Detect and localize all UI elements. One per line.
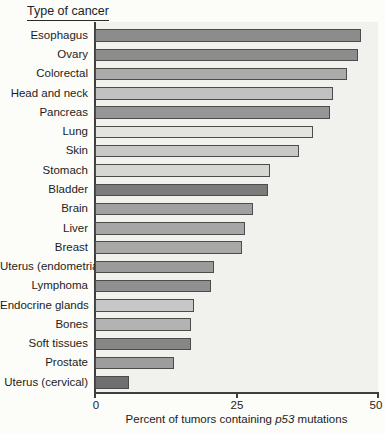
bar-track xyxy=(95,257,378,276)
bar-row: Soft tissues xyxy=(0,334,378,353)
bar xyxy=(95,357,174,370)
category-label: Skin xyxy=(0,145,95,157)
bar xyxy=(95,241,242,254)
bar xyxy=(95,29,361,42)
bar-row: Prostate xyxy=(0,354,378,373)
bar-track xyxy=(95,373,378,392)
bar-row: Lymphoma xyxy=(0,276,378,295)
category-label: Liver xyxy=(0,223,95,235)
bar xyxy=(95,280,211,293)
bar-row: Bones xyxy=(0,315,378,334)
bar-rows: Esophagus Ovary Colorectal Head and neck… xyxy=(0,26,378,392)
x-axis-tick-label-25: 25 xyxy=(231,399,244,411)
bar-row: Head and neck xyxy=(0,84,378,103)
bar xyxy=(95,261,214,274)
category-label: Pancreas xyxy=(0,107,95,119)
bar-row: Lung xyxy=(0,122,378,141)
bar-track xyxy=(95,238,378,257)
bar-row: Brain xyxy=(0,199,378,218)
x-axis-title-gene: p53 xyxy=(275,413,294,425)
bar-row: Stomach xyxy=(0,161,378,180)
category-label: Prostate xyxy=(0,357,95,369)
bar xyxy=(95,87,333,100)
bar-row: Colorectal xyxy=(0,65,378,84)
category-label: Stomach xyxy=(0,165,95,177)
bar xyxy=(95,49,358,62)
bar xyxy=(95,318,191,331)
bar-track xyxy=(95,334,378,353)
bar-track xyxy=(95,296,378,315)
category-label: Breast xyxy=(0,242,95,254)
bar-track xyxy=(95,45,378,64)
bar-track xyxy=(95,84,378,103)
bar xyxy=(95,222,245,235)
chart-title: Type of cancer xyxy=(27,4,109,21)
bar-row: Liver xyxy=(0,219,378,238)
bar-track xyxy=(95,26,378,45)
x-axis-tick-label-0: 0 xyxy=(93,399,99,411)
bar-row: Esophagus xyxy=(0,26,378,45)
bar xyxy=(95,376,129,389)
bar xyxy=(95,68,347,81)
bar xyxy=(95,106,330,119)
x-axis-tick-0 xyxy=(94,393,96,398)
bar-row: Breast xyxy=(0,238,378,257)
category-label: Soft tissues xyxy=(0,338,95,350)
bar-track xyxy=(95,315,378,334)
category-label: Ovary xyxy=(0,49,95,61)
x-axis-title-suffix: mutations xyxy=(294,413,347,425)
bar-track xyxy=(95,142,378,161)
category-label: Uterus (endometrial) xyxy=(0,261,95,273)
category-label: Lung xyxy=(0,126,95,138)
category-label: Uterus (cervical) xyxy=(0,377,95,389)
bar-track xyxy=(95,65,378,84)
bar-row: Uterus (endometrial) xyxy=(0,257,378,276)
x-axis-title: Percent of tumors containing p53 mutatio… xyxy=(94,413,379,425)
bar-track xyxy=(95,103,378,122)
category-label: Lymphoma xyxy=(0,280,95,292)
bar-row: Skin xyxy=(0,142,378,161)
category-label: Esophagus xyxy=(0,30,95,42)
x-axis-tick-25 xyxy=(236,393,238,398)
bar xyxy=(95,203,253,216)
bar-row: Bladder xyxy=(0,180,378,199)
bar-track xyxy=(95,180,378,199)
bar-track xyxy=(95,161,378,180)
bar-track xyxy=(95,219,378,238)
bar-track xyxy=(95,122,378,141)
category-label: Colorectal xyxy=(0,68,95,80)
bar xyxy=(95,338,191,351)
x-axis-title-prefix: Percent of tumors containing xyxy=(126,413,276,425)
category-label: Bladder xyxy=(0,184,95,196)
category-label: Head and neck xyxy=(0,88,95,100)
bar xyxy=(95,184,268,197)
bar-track xyxy=(95,276,378,295)
category-label: Endocrine glands xyxy=(0,300,95,312)
bar xyxy=(95,299,194,312)
bar xyxy=(95,145,299,158)
x-axis-tick-50 xyxy=(377,393,379,398)
bar-row: Ovary xyxy=(0,45,378,64)
bar-track xyxy=(95,354,378,373)
category-label: Bones xyxy=(0,319,95,331)
category-label: Brain xyxy=(0,203,95,215)
bar-row: Uterus (cervical) xyxy=(0,373,378,392)
bar-row: Pancreas xyxy=(0,103,378,122)
bar xyxy=(95,126,313,139)
bar-track xyxy=(95,199,378,218)
bar xyxy=(95,164,270,177)
bar-row: Endocrine glands xyxy=(0,296,378,315)
x-axis-tick-label-50: 50 xyxy=(370,399,383,411)
